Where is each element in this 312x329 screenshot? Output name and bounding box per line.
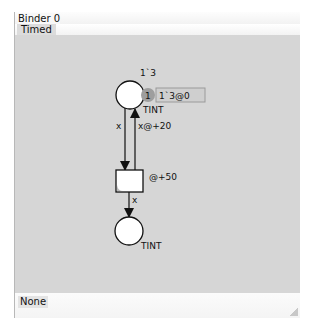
bottom-place[interactable]: [115, 217, 143, 245]
tab-bar: [15, 24, 300, 35]
binder-title: Binder 0: [18, 13, 60, 24]
arc-bottom-inscription: x: [132, 195, 138, 205]
transition-time-inscription: @+50: [149, 172, 177, 182]
svg-text:1: 1: [145, 91, 151, 101]
svg-text:1`3@0: 1`3@0: [159, 91, 190, 101]
current-marking-box[interactable]: 1`3@0: [156, 88, 205, 102]
arc-down-inscription: x: [116, 121, 122, 131]
binder-panel: Binder 0 Timed 1`3 1 1`3@0: [14, 12, 300, 318]
net-canvas[interactable]: 1`3 1 1`3@0 TINT x x@+20: [15, 35, 300, 293]
resize-grip-icon[interactable]: [290, 308, 298, 316]
bottom-place-colset: TINT: [140, 241, 162, 251]
status-bar: [15, 293, 300, 318]
arc-up-inscription: x@+20: [138, 121, 172, 131]
token-count-badge[interactable]: 1: [141, 88, 155, 102]
status-label: None: [18, 296, 48, 308]
top-place-colset: TINT: [142, 105, 164, 115]
top-place[interactable]: [116, 81, 144, 109]
transition[interactable]: [116, 170, 143, 192]
top-place-initial-marking: 1`3: [140, 68, 156, 78]
